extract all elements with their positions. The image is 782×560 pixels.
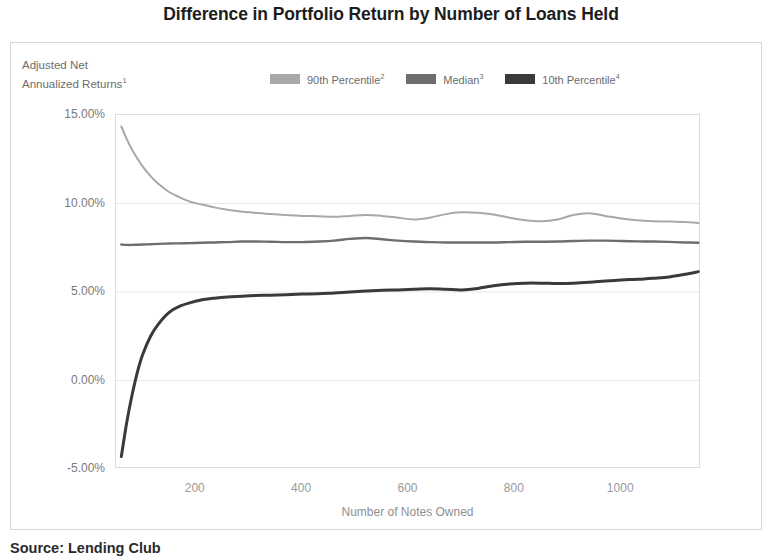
x-axis-ticks: 2004006008001000 <box>0 0 782 560</box>
x-tick-label: 600 <box>373 481 443 495</box>
chart-figure: Difference in Portfolio Return by Number… <box>0 0 782 560</box>
source-note: Source: Lending Club <box>10 540 161 556</box>
x-tick-label: 1000 <box>585 481 655 495</box>
x-tick-label: 400 <box>266 481 336 495</box>
x-tick-label: 200 <box>160 481 230 495</box>
x-tick-label: 800 <box>479 481 549 495</box>
x-axis-title: Number of Notes Owned <box>115 505 700 519</box>
